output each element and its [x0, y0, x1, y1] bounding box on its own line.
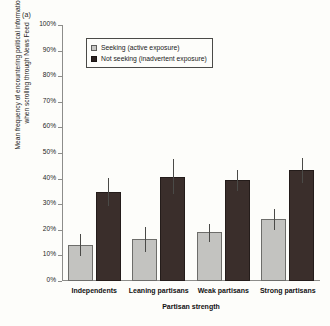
x-category-label: Strong partisans [256, 287, 321, 294]
legend-label-not-seeking: Not seeking (inadvertent exposure) [101, 55, 207, 62]
y-tick-label: 90% [43, 46, 56, 53]
x-category-label: Independents [62, 287, 127, 294]
error-bar [108, 178, 109, 206]
x-category-label: Weak partisans [191, 287, 256, 294]
error-bar [237, 170, 238, 191]
y-tick-label: 20% [43, 225, 56, 232]
y-tick-label: 70% [43, 97, 56, 104]
legend-item-not-seeking: Not seeking (inadvertent exposure) [91, 53, 207, 64]
y-tick-label: 0% [46, 276, 56, 283]
y-tick-label: 60% [43, 122, 56, 129]
error-bar [80, 234, 81, 256]
error-bar [173, 159, 174, 195]
error-bar [145, 227, 146, 251]
legend-label-seeking: Seeking (active exposure) [101, 44, 180, 51]
bar-notseeking[interactable] [289, 170, 314, 281]
y-axis-title-line-2: when scrolling through News Feed [22, 22, 31, 123]
x-axis-title: Partisan strength [62, 303, 320, 310]
y-axis-title-line-1: Mean frequency of encountering political… [13, 0, 22, 149]
y-tick-label: 40% [43, 174, 56, 181]
bar-group [256, 25, 321, 281]
chart-legend: Seeking (active exposure) Not seeking (i… [86, 38, 213, 68]
y-axis-title: Mean frequency of encountering political… [9, 0, 35, 187]
y-tick-label: 10% [43, 250, 56, 257]
legend-swatch-not-seeking-icon [91, 56, 97, 62]
y-tick-mark [58, 281, 62, 282]
x-category-label: Leaning partisans [127, 287, 192, 294]
legend-item-seeking: Seeking (active exposure) [91, 42, 207, 53]
error-bar [274, 209, 275, 230]
bar-notseeking[interactable] [225, 180, 250, 281]
y-tick-label: 100% [39, 20, 56, 27]
legend-swatch-seeking-icon [91, 45, 97, 51]
error-bar [302, 158, 303, 183]
y-tick-label: 80% [43, 71, 56, 78]
y-tick-label: 50% [43, 148, 56, 155]
y-tick-label: 30% [43, 199, 56, 206]
error-bar [209, 224, 210, 242]
